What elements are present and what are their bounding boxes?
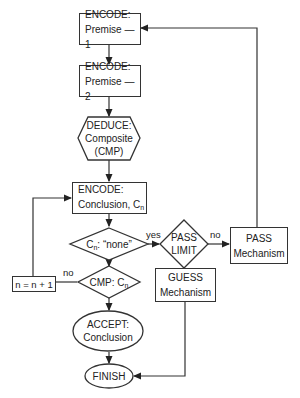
connector-lines — [0, 0, 300, 398]
node-text: Conclusion — [74, 331, 142, 344]
pass-limit-label: PASS LIMIT — [164, 231, 204, 257]
node-text: Mechanism — [160, 285, 211, 300]
encode-premise-1-box: ENCODE: Premise — 1 — [79, 13, 141, 45]
node-text: (CMP) — [80, 145, 138, 158]
encode-conclusion-box: ENCODE: Conclusion, Cn — [72, 182, 147, 214]
edge-label-no-pass: no — [210, 229, 221, 240]
decision-none-label: Cn: “none” — [78, 238, 140, 254]
node-title: GUESS — [168, 270, 203, 285]
node-title: ENCODE: — [85, 59, 131, 74]
edge-label-yes: yes — [146, 229, 161, 240]
node-title: ACCEPT: — [74, 318, 142, 331]
guess-mechanism-box: GUESS Mechanism — [155, 268, 216, 302]
node-title: ENCODE: — [85, 7, 131, 22]
pass-mechanism-box: PASS Mechanism — [230, 227, 288, 264]
node-text: n = n + 1 — [15, 277, 53, 292]
deduce-label: DEDUCE: Composite (CMP) — [80, 119, 138, 158]
node-title: PASS — [246, 231, 272, 246]
node-title: ENCODE: — [78, 182, 124, 197]
node-title: DEDUCE: — [80, 119, 138, 132]
accept-label: ACCEPT: Conclusion — [74, 318, 142, 344]
node-text: Conclusion, Cn — [78, 197, 144, 215]
encode-premise-2-box: ENCODE: Premise — 2 — [79, 65, 141, 97]
increment-box: n = n + 1 — [12, 276, 56, 292]
node-text: Mechanism — [233, 246, 284, 261]
node-text: Premise — 2 — [85, 74, 140, 104]
node-text: Composite — [80, 132, 138, 145]
edge-label-no-cmp: no — [63, 267, 74, 278]
node-text: Premise — 1 — [85, 22, 140, 52]
decision-cmp-label: CMP: Cn — [84, 276, 134, 292]
finish-label: FINISH — [86, 370, 132, 383]
